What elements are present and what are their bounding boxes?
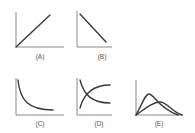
panel-e-tall-peak-curve [136,94,178,115]
panel-a-axes [16,12,64,47]
panel-a-label: (A) [36,53,45,60]
panel-b-decreasing-line [80,14,106,42]
panel-c [16,78,64,115]
panel-a [16,12,64,47]
panel-d-increasing-curve [80,85,110,108]
panel-d-label: (D) [94,120,103,127]
panel-a-increasing-line [16,15,50,47]
panel-b [77,11,112,47]
panel-c-label: (C) [35,120,44,127]
panel-b-label: (B) [98,53,107,60]
panel-e [136,80,183,115]
panel-e-label: (E) [155,120,164,127]
panel-d-decreasing-curve [80,80,110,103]
panel-e-broad-peak-curve [136,102,182,115]
graph-figure [0,0,195,133]
panel-c-hyperbola [18,80,53,110]
panel-d [77,78,112,115]
panel-d-axes [77,78,112,115]
